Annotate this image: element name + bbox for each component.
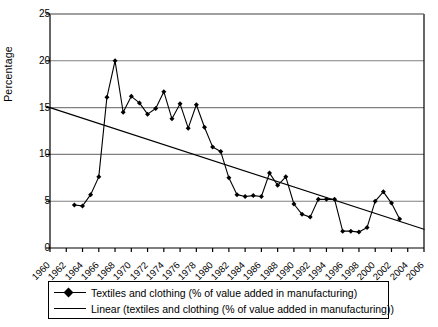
legend-marker-line-icon (49, 302, 91, 316)
plot-area (0, 0, 438, 327)
chart-figure: Percentage 0510152025 196019621964196619… (0, 0, 438, 327)
legend-marker-diamond-icon (49, 286, 91, 300)
legend-label-series: Textiles and clothing (% of value added … (91, 287, 357, 299)
legend-item-trend: Linear (textiles and clothing (% of valu… (49, 300, 394, 318)
chart-legend: Textiles and clothing (% of value added … (48, 281, 389, 319)
legend-label-trend: Linear (textiles and clothing (% of valu… (91, 303, 394, 315)
